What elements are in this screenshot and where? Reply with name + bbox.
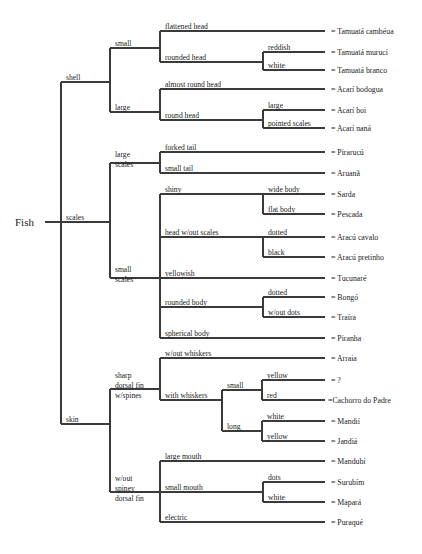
- node-label-shiny: shiny: [165, 185, 182, 194]
- leaf-almost-round-head: = Acarí bodogua: [331, 85, 384, 94]
- node-label-white-mandii: white: [267, 412, 285, 421]
- leaf-label-without-dots: = Traíra: [331, 313, 357, 322]
- node-label-dotted: dotted: [268, 228, 287, 237]
- node-label-spherical-body: spherical body: [165, 329, 210, 338]
- leaf-small-tail: = Aruanã: [331, 169, 360, 178]
- node-label-whisker-long: long: [227, 422, 241, 431]
- leaf-label-pointed-scales: = Acarí naná: [331, 124, 371, 133]
- node-label-sharp-dorsal-fin: sharpdorsal finw/spines: [115, 371, 144, 399]
- leaf-forked-tail: = Pirarucú: [331, 148, 364, 157]
- leaf-spherical-body: = Piranha: [331, 334, 362, 343]
- leaf-wide-body: = Sarda: [331, 190, 356, 199]
- leaf-label-red: =Cachorro do Padre: [328, 396, 391, 405]
- leaf-dotted: = Aracú cavalo: [331, 233, 378, 242]
- leaf-label-yellow-unknown: = ?: [331, 376, 341, 385]
- node-label-small-scales: smallscales: [115, 265, 133, 284]
- leaf-without-whiskers: = Arraia: [331, 354, 357, 363]
- node-label-head-without-scales: head w/out scales: [165, 228, 219, 237]
- leaf-flattened-head: = Tamuatá cambéua: [331, 27, 394, 36]
- node-label-skin: skin: [66, 415, 79, 424]
- leaf-without-dots: = Traíra: [331, 313, 357, 322]
- leaf-label-dots: = Surubím: [331, 478, 364, 487]
- leaf-label-dotted: = Aracú cavalo: [331, 233, 378, 242]
- leaf-label-white-tamuata: = Tamuatá branco: [331, 66, 387, 75]
- leaf-yellow-unknown: = ?: [331, 376, 341, 385]
- leaf-label-flattened-head: = Tamuatá cambéua: [331, 27, 394, 36]
- node-label-with-whiskers: with whiskers: [165, 391, 207, 400]
- root-label-fish: Fish: [15, 216, 34, 228]
- leaf-label-electric: = Puraqué: [331, 518, 363, 527]
- node-label-flat-body: flat body: [268, 205, 295, 214]
- node-label-dots: dots: [268, 473, 281, 482]
- leaf-dots: = Surubím: [331, 478, 364, 487]
- leaf-acari-large: = Acarí boi: [331, 106, 367, 115]
- node-label-scales: scales: [66, 213, 84, 222]
- node-label-rounded-head: rounded head: [165, 53, 206, 62]
- leaf-label-white-mapara: = Mapará: [331, 498, 362, 507]
- node-label-black: black: [268, 248, 285, 257]
- leaf-pointed-scales: = Acarí naná: [331, 124, 371, 133]
- leaf-black: = Aracú pretinho: [331, 253, 384, 262]
- node-label-dotted-traira: dotted: [268, 288, 287, 297]
- node-label-without-spiney-dorsal-fin: w/outspineydorsal fin: [115, 474, 144, 502]
- leaf-electric: = Puraqué: [331, 518, 363, 527]
- node-label-whisker-small: small: [227, 381, 243, 390]
- node-label-almost-round-head: almost round head: [165, 80, 221, 89]
- leaf-label-large-mouth: = Mandubí: [331, 457, 366, 466]
- node-label-without-whiskers: w/out whiskers: [165, 349, 211, 358]
- leaf-label-black: = Aracú pretinho: [331, 253, 384, 262]
- leaf-label-small-tail: = Aruanã: [331, 169, 360, 178]
- node-label-large-scales: largescales: [115, 150, 133, 169]
- node-label-small-mouth: small mouth: [165, 483, 203, 492]
- node-label-yellow-jandia: yellow: [267, 432, 288, 441]
- node-label-small-tail: small tail: [165, 164, 193, 173]
- leaf-red: =Cachorro do Padre: [328, 396, 391, 405]
- leaf-yellow-jandia: = Jandiá: [331, 437, 358, 446]
- node-label-reddish: reddish: [268, 43, 291, 52]
- node-label-red: red: [267, 391, 277, 400]
- node-label-shell-large: large: [115, 103, 131, 112]
- leaf-label-spherical-body: = Piranha: [331, 334, 362, 343]
- leaf-reddish: = Tamuatá murucí: [331, 48, 389, 57]
- dendrogram-figure: Fishshellsmallflattened head= Tamuatá ca…: [0, 0, 422, 554]
- node-label-yellowish: yellowish: [165, 269, 195, 278]
- leaf-label-dotted-traira: = Bongó: [331, 293, 358, 302]
- leaf-white-mapara: = Mapará: [331, 498, 362, 507]
- leaf-yellowish: = Tucunaré: [331, 274, 367, 283]
- leaf-flat-body: = Pescada: [331, 210, 363, 219]
- node-label-shell-small: small: [115, 39, 131, 48]
- node-label-round-head: round head: [165, 111, 199, 120]
- node-label-electric: electric: [165, 513, 188, 522]
- leaf-label-yellow-jandia: = Jandiá: [331, 437, 358, 446]
- leaf-dotted-traira: = Bongó: [331, 293, 358, 302]
- node-label-yellow-unknown: yellow: [267, 371, 288, 380]
- node-label-white-mapara: white: [268, 493, 286, 502]
- node-label-forked-tail: forked tail: [165, 143, 196, 152]
- leaf-label-yellowish: = Tucunaré: [331, 274, 367, 283]
- leaf-white-tamuata: = Tamuatá branco: [331, 66, 387, 75]
- leaf-label-flat-body: = Pescada: [331, 210, 363, 219]
- node-label-wide-body: wide body: [268, 185, 300, 194]
- leaf-label-almost-round-head: = Acarí bodogua: [331, 85, 384, 94]
- leaf-white-mandii: = Mandií: [331, 417, 361, 426]
- leaf-label-wide-body: = Sarda: [331, 190, 356, 199]
- node-label-large-mouth: large mouth: [165, 452, 202, 461]
- node-label-shell: shell: [66, 73, 80, 82]
- leaf-label-forked-tail: = Pirarucú: [331, 148, 364, 157]
- leaf-label-white-mandii: = Mandií: [331, 417, 361, 426]
- node-label-flattened-head: flattened head: [165, 22, 208, 31]
- node-label-without-dots: w/out dots: [268, 308, 300, 317]
- leaf-label-reddish: = Tamuatá murucí: [331, 48, 389, 57]
- leaf-label-acari-large: = Acarí boi: [331, 106, 367, 115]
- leaf-large-mouth: = Mandubí: [331, 457, 366, 466]
- leaf-label-without-whiskers: = Arraia: [331, 354, 357, 363]
- node-label-pointed-scales: pointed scales: [268, 119, 311, 128]
- node-label-acari-large: large: [268, 101, 284, 110]
- node-label-white-tamuata: white: [268, 61, 286, 70]
- node-label-rounded-body: rounded body: [165, 298, 207, 307]
